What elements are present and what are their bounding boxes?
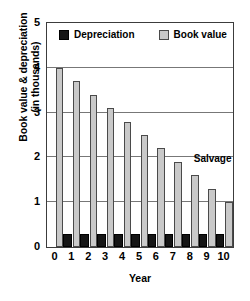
- x-tick-label: 9: [204, 250, 210, 262]
- x-axis-tick-labels: 012345678910: [46, 250, 234, 266]
- book-value-bar: [73, 81, 81, 247]
- x-tick-label: 4: [119, 250, 125, 262]
- y-tick-label: 4: [26, 61, 40, 73]
- x-tick-label: 2: [85, 250, 91, 262]
- y-tick-label: 1: [26, 195, 40, 207]
- y-tick-label: 3: [26, 106, 40, 118]
- book-value-bar: [107, 108, 115, 247]
- x-tick-label: 10: [217, 250, 229, 262]
- book-value-bar: [56, 68, 64, 247]
- x-tick-label: 1: [68, 250, 74, 262]
- depreciation-bar: [165, 234, 174, 247]
- depreciation-bar: [182, 234, 191, 247]
- y-tick-label: 5: [26, 16, 40, 28]
- depreciation-bar: [199, 234, 208, 247]
- book-value-bar: [208, 189, 216, 247]
- x-axis-title: Year: [46, 272, 234, 284]
- light-square-swatch-icon: [159, 30, 169, 40]
- legend-entry-book-value: Book value: [159, 29, 227, 40]
- bar-group: [47, 23, 233, 247]
- salvage-annotation: Salvage: [194, 153, 232, 164]
- x-tick-label: 0: [51, 250, 57, 262]
- legend-label-book-value: Book value: [174, 29, 227, 40]
- y-tick-label: 0: [26, 240, 40, 252]
- book-value-bar: [225, 202, 233, 247]
- depreciation-bar: [80, 234, 89, 247]
- dark-square-swatch-icon: [59, 30, 69, 40]
- x-tick-label: 8: [187, 250, 193, 262]
- book-value-depreciation-chart: Book value & depreciation (in thousands)…: [0, 0, 250, 301]
- depreciation-bar: [114, 234, 123, 247]
- y-axis-tick-labels: 012345: [26, 0, 40, 301]
- book-value-bar: [141, 135, 149, 247]
- y-tick-label: 2: [26, 150, 40, 162]
- book-value-bar: [90, 95, 98, 247]
- legend: Depreciation Book value: [59, 29, 227, 40]
- book-value-bar: [124, 122, 132, 247]
- x-tick-label: 7: [170, 250, 176, 262]
- legend-label-depreciation: Depreciation: [74, 29, 135, 40]
- book-value-bar: [157, 148, 165, 247]
- book-value-bar: [174, 162, 182, 247]
- legend-entry-depreciation: Depreciation: [59, 29, 135, 40]
- plot-area: Depreciation Book value Salvage: [46, 22, 234, 248]
- x-tick-label: 6: [153, 250, 159, 262]
- book-value-bar: [191, 175, 199, 247]
- depreciation-bar: [63, 234, 72, 247]
- depreciation-bar: [131, 234, 140, 247]
- x-tick-label: 5: [136, 250, 142, 262]
- depreciation-bar: [216, 234, 225, 247]
- depreciation-bar: [148, 234, 157, 247]
- depreciation-bar: [97, 234, 106, 247]
- x-tick-label: 3: [102, 250, 108, 262]
